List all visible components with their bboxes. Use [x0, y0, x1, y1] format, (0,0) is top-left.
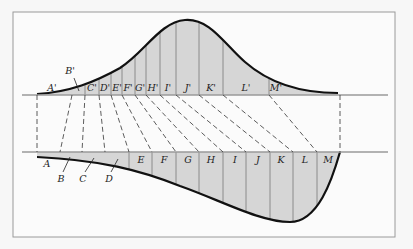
- bottom-label: D: [104, 173, 113, 184]
- bottom-label: L: [301, 154, 308, 165]
- top-label: I': [164, 82, 171, 93]
- top-label: F': [122, 82, 132, 93]
- top-label: G': [135, 82, 145, 93]
- top-label: H': [147, 82, 159, 93]
- bottom-label: B: [57, 173, 65, 184]
- top-label: A': [46, 82, 56, 93]
- bottom-label: F: [160, 154, 168, 165]
- bottom-label: I: [232, 154, 237, 165]
- distribution-mapping-diagram: A'B'C'D'E'F'G'H'I'J'K'L'M' ABCDEFGHIJKLM: [0, 0, 413, 249]
- top-label: E': [111, 82, 122, 93]
- bottom-label: M: [322, 154, 333, 165]
- top-label: J': [183, 82, 191, 93]
- bottom-label: A: [43, 158, 51, 169]
- bottom-label: H: [206, 154, 216, 165]
- top-label: K': [205, 82, 216, 93]
- top-label: M': [269, 82, 282, 93]
- bottom-label: K: [276, 154, 285, 165]
- top-label: C': [87, 82, 97, 93]
- bottom-label: C: [79, 173, 87, 184]
- bottom-label: G: [184, 154, 192, 165]
- top-label: B': [64, 65, 75, 76]
- top-label: D': [99, 82, 110, 93]
- top-label: L': [241, 82, 251, 93]
- bottom-label: E: [137, 154, 145, 165]
